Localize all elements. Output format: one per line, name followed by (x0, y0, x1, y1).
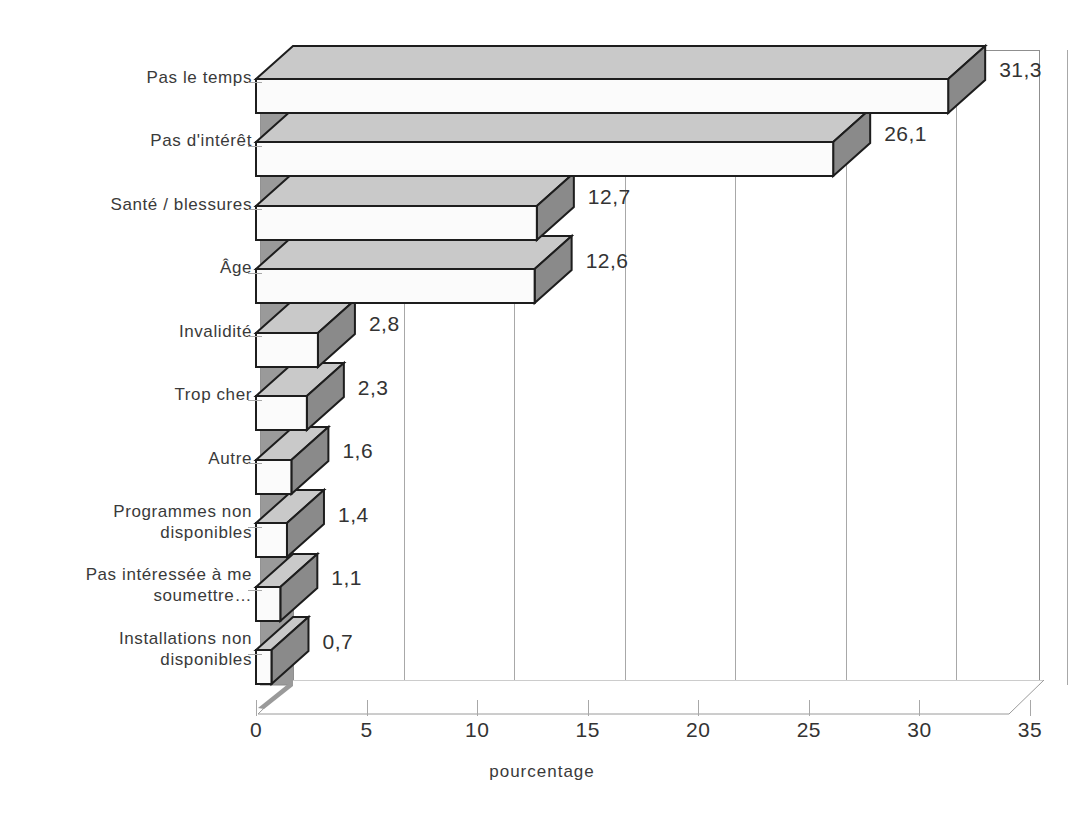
bar-top-face (256, 46, 985, 79)
category-tick (248, 82, 262, 83)
x-axis-tick-label: 5 (337, 718, 397, 742)
x-axis-tick-label: 15 (558, 718, 618, 742)
category-label: Pas intéressée à me soumettre… (20, 564, 252, 606)
x-axis-tick-label: 10 (447, 718, 507, 742)
bar-value-label: 0,7 (322, 630, 353, 654)
category-label: Programmes non disponibles (20, 501, 252, 543)
category-label: Pas d'intérêt (20, 130, 252, 151)
x-axis-tick (477, 700, 478, 716)
x-axis-tick (588, 700, 589, 716)
category-label: Installations non disponibles (20, 628, 252, 670)
category-label: Âge (20, 257, 252, 278)
x-axis-title: pourcentage (0, 762, 1084, 782)
x-axis-tick-label: 30 (889, 718, 949, 742)
x-axis-tick (919, 700, 920, 716)
category-label: Pas le temps (20, 67, 252, 88)
category-label: Trop cher (20, 384, 252, 405)
bar-front-face (256, 79, 948, 113)
chart-bars-layer: 051015202530350,7Installations non dispo… (0, 0, 1084, 822)
bar-value-label: 1,1 (331, 566, 362, 590)
x-axis-tick (1030, 700, 1031, 716)
x-axis-tick (698, 700, 699, 716)
bar-3d[interactable] (252, 39, 993, 154)
category-label: Invalidité (20, 321, 252, 342)
x-axis-tick (809, 700, 810, 716)
x-axis-tick-label: 35 (1000, 718, 1060, 742)
x-axis-tick-label: 20 (668, 718, 728, 742)
category-label: Santé / blessures (20, 194, 252, 215)
x-axis-tick-label: 25 (779, 718, 839, 742)
bar-value-label: 31,3 (999, 58, 1042, 82)
x-axis-tick (367, 700, 368, 716)
bar-value-label: 12,6 (586, 249, 629, 273)
bar-chart: 051015202530350,7Installations non dispo… (0, 0, 1084, 822)
category-label: Autre (20, 448, 252, 469)
bar-value-label: 1,4 (338, 503, 369, 527)
